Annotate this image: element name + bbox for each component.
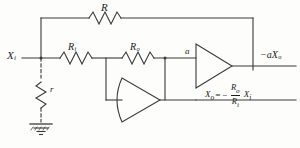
label-output-signal: −aXo [260,50,281,61]
formula-equals: = [215,91,221,100]
resistor-feedback-zigzag [89,12,121,24]
resistor-output-zigzag [122,52,154,64]
formula-fraction: Ro Ri [230,83,241,109]
circuit-schematic-svg [0,0,300,148]
label-node-gain: a [185,47,190,56]
resistor-shunt-zigzag [36,82,46,108]
label-input-signal-base: X [7,49,14,61]
amplifier-right-triangle [196,44,232,88]
junction-node-summing [164,57,167,60]
label-input-signal-sub: i [14,54,16,62]
formula-numerator: Ro [230,83,241,95]
label-output-signal-sub: o [278,53,282,60]
label-input-resistor-sub: i [74,45,76,52]
formula-term: Xi [244,90,252,101]
formula-denominator-sub: i [237,100,239,108]
label-feedback-resistor: R [101,2,108,13]
junction-node-input [40,57,43,60]
resistor-input-zigzag [60,52,92,64]
amplifier-lower-triangle [117,78,160,122]
label-input-resistor: Ri [68,42,76,53]
label-output-resistor: Ro [130,42,140,53]
formula-numerator-sub: o [236,87,240,95]
formula-lhs: Xo [205,90,214,101]
label-output-resistor-sub: o [136,45,140,52]
label-input-signal: Xi [7,50,16,62]
gain-formula: Xo = − Ro Ri Xi [205,83,251,109]
formula-minus: − [222,91,228,100]
label-output-signal-base: −aX [260,49,278,60]
formula-denominator: Ri [231,95,240,108]
label-shunt-resistor: r [50,85,54,94]
circuit-diagram-canvas: R Ri Ro r Xi a −aXo Xo = − Ro Ri Xi [0,0,300,148]
formula-term-sub: i [249,93,251,102]
formula-lhs-sub: o [211,93,215,102]
